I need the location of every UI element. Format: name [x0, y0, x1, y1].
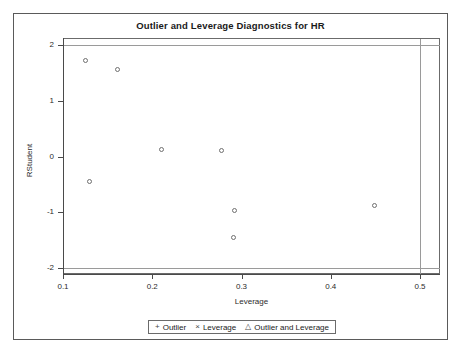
reference-line-rstudent-upper-cutoff — [64, 45, 440, 46]
data-point — [232, 208, 237, 213]
legend-symbol-icon: △ — [245, 323, 251, 331]
y-tick-label-2: 2 — [32, 40, 54, 49]
data-point — [83, 58, 88, 63]
legend-item: ×Leverage — [195, 323, 236, 332]
y-tick-0 — [58, 157, 63, 158]
y-axis-title: RStudent — [25, 126, 34, 196]
y-tick-label--2: -2 — [32, 263, 54, 272]
x-axis-line — [63, 274, 440, 275]
page-title: Outlier and Leverage Diagnostics for HR — [0, 20, 461, 31]
legend-label: Leverage — [203, 323, 236, 332]
reference-line-leverage-cutoff — [420, 39, 421, 274]
y-tick-2 — [58, 45, 63, 46]
x-tick-label-0.4: 0.4 — [316, 282, 346, 291]
x-tick-label-0.5: 0.5 — [405, 282, 435, 291]
x-tick-0.4 — [331, 274, 332, 279]
data-point — [87, 179, 92, 184]
y-tick--2 — [58, 268, 63, 269]
x-tick-0.1 — [63, 274, 64, 279]
legend-label: Outlier and Leverage — [254, 323, 329, 332]
x-tick-0.3 — [242, 274, 243, 279]
y-tick-label--1: -1 — [32, 207, 54, 216]
plot-area — [63, 38, 440, 274]
reference-line-rstudent-lower-cutoff — [64, 268, 440, 269]
legend-label: Outlier — [163, 323, 187, 332]
legend-symbol-icon: + — [155, 323, 160, 331]
data-point — [115, 67, 120, 72]
legend-item: +Outlier — [155, 323, 186, 332]
y-tick-label-1: 1 — [32, 96, 54, 105]
x-tick-label-0.2: 0.2 — [137, 282, 167, 291]
x-axis-title: Leverage — [63, 297, 440, 306]
data-point — [372, 203, 377, 208]
x-tick-label-0.1: 0.1 — [48, 282, 78, 291]
y-tick-1 — [58, 101, 63, 102]
y-tick--1 — [58, 212, 63, 213]
legend-item: △Outlier and Leverage — [245, 323, 329, 332]
y-tick-label-0: 0 — [32, 152, 54, 161]
data-point — [159, 147, 164, 152]
legend-symbol-icon: × — [195, 323, 200, 331]
y-axis-line — [63, 38, 64, 274]
data-point — [219, 148, 224, 153]
x-tick-0.2 — [152, 274, 153, 279]
chart-panel: Outlier and Leverage Diagnostics for HR … — [0, 0, 461, 357]
chart-legend: +Outlier×Leverage△Outlier and Leverage — [148, 320, 336, 334]
x-tick-0.5 — [420, 274, 421, 279]
x-tick-label-0.3: 0.3 — [227, 282, 257, 291]
